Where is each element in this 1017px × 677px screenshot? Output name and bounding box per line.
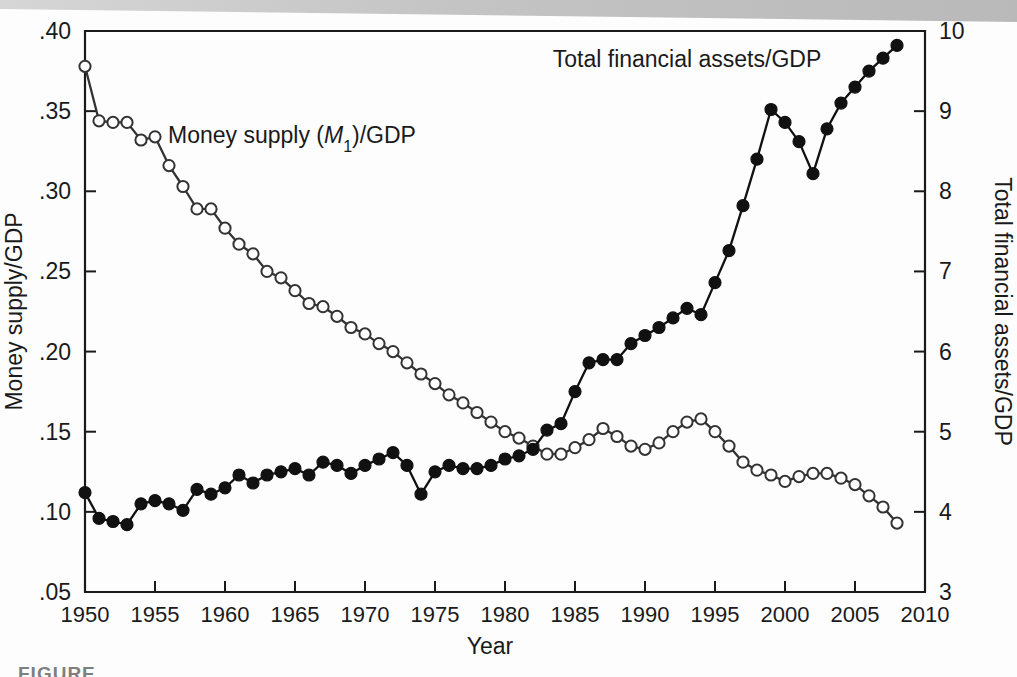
- data-point-open: [667, 426, 678, 437]
- data-point-open: [695, 413, 706, 424]
- data-point-filled: [569, 386, 581, 398]
- data-point-filled: [205, 488, 217, 500]
- data-point-filled: [541, 424, 553, 436]
- data-point-filled: [779, 116, 791, 128]
- y-axis-title: Money supply/GDP: [1, 212, 27, 410]
- data-point-filled: [639, 330, 651, 342]
- data-point-open: [191, 203, 202, 214]
- data-point-filled: [401, 459, 413, 471]
- plot-frame: [85, 31, 925, 592]
- data-point-filled: [821, 123, 833, 135]
- data-point-open: [821, 468, 832, 479]
- data-point-filled: [247, 477, 259, 489]
- x-axis-tick-label: 1975: [411, 602, 460, 627]
- data-point-filled: [163, 498, 175, 510]
- data-point-filled: [331, 459, 343, 471]
- data-point-open: [499, 426, 510, 437]
- data-point-filled: [583, 357, 595, 369]
- data-point-open: [723, 441, 734, 452]
- data-point-open: [751, 465, 762, 476]
- x-axis-title: Year: [467, 633, 514, 659]
- data-point-open: [79, 61, 90, 72]
- y2-axis-tick-label: 9: [939, 98, 952, 124]
- data-point-filled: [611, 354, 623, 366]
- data-point-open: [261, 266, 272, 277]
- y-axis-tick-label: .40: [39, 18, 71, 44]
- data-point-filled: [513, 450, 525, 462]
- data-point-filled: [121, 519, 133, 531]
- data-point-filled: [667, 312, 679, 324]
- x-axis-tick-label: 1960: [201, 602, 250, 627]
- data-point-open: [275, 272, 286, 283]
- data-point-open: [205, 203, 216, 214]
- data-point-filled: [695, 309, 707, 321]
- data-point-open: [303, 298, 314, 309]
- data-point-open: [233, 239, 244, 250]
- data-point-filled: [849, 81, 861, 93]
- data-point-filled: [625, 338, 637, 350]
- data-point-filled: [429, 466, 441, 478]
- data-point-filled: [723, 245, 735, 257]
- x-axis-tick-label: 1990: [621, 602, 670, 627]
- figure-root: 1950195519601965197019751980198519901995…: [0, 0, 1017, 677]
- figure-caption-partial: FIGURE: [18, 663, 238, 677]
- annotation-total-financial-assets-label: Total financial assets/GDP: [553, 46, 821, 72]
- y-axis-tick-label: .20: [39, 339, 71, 365]
- data-point-open: [877, 501, 888, 512]
- y-axis-tick-label: .05: [39, 579, 71, 605]
- data-point-open: [471, 407, 482, 418]
- data-point-open: [247, 248, 258, 259]
- y-axis-tick-label: .30: [39, 178, 71, 204]
- x-axis-tick-label: 1985: [551, 602, 600, 627]
- data-point-open: [737, 457, 748, 468]
- data-point-open: [835, 473, 846, 484]
- data-point-filled: [415, 488, 427, 500]
- x-axis-tick-label: 1995: [691, 602, 740, 627]
- data-point-open: [429, 378, 440, 389]
- data-point-open: [513, 433, 524, 444]
- data-point-open: [359, 328, 370, 339]
- data-point-filled: [863, 65, 875, 77]
- annotation-money-supply-label: Money supply (M1)/GDP: [168, 122, 416, 155]
- x-axis-tick-label: 1950: [61, 602, 110, 627]
- data-point-filled: [261, 469, 273, 481]
- data-point-filled: [219, 482, 231, 494]
- data-point-filled: [387, 447, 399, 459]
- data-point-open: [555, 449, 566, 460]
- data-point-open: [457, 397, 468, 408]
- data-point-filled: [275, 466, 287, 478]
- data-point-filled: [79, 487, 91, 499]
- data-point-filled: [471, 463, 483, 475]
- data-point-filled: [709, 277, 721, 289]
- data-point-open: [317, 301, 328, 312]
- data-point-open: [583, 434, 594, 445]
- x-axis-tick-label: 2000: [761, 602, 810, 627]
- y2-axis-tick-label: 8: [939, 178, 952, 204]
- data-point-open: [709, 426, 720, 437]
- x-axis-tick-label: 1965: [271, 602, 320, 627]
- data-point-open: [569, 442, 580, 453]
- data-point-open: [149, 131, 160, 142]
- data-point-open: [177, 181, 188, 192]
- data-point-open: [345, 322, 356, 333]
- x-axis-tick-label: 1955: [131, 602, 180, 627]
- data-point-open: [415, 368, 426, 379]
- data-point-filled: [359, 459, 371, 471]
- y2-axis-tick-label: 10: [939, 18, 965, 44]
- data-point-filled: [177, 504, 189, 516]
- data-point-open: [387, 346, 398, 357]
- data-point-open: [807, 468, 818, 479]
- data-point-open: [793, 471, 804, 482]
- data-point-filled: [891, 39, 903, 51]
- y2-axis-tick-label: 3: [939, 579, 952, 605]
- data-point-open: [541, 449, 552, 460]
- data-point-filled: [765, 104, 777, 116]
- series-line: [85, 45, 897, 524]
- y2-axis-title: Total financial assets/GDP: [990, 177, 1016, 445]
- x-axis-tick-label: 2010: [901, 602, 950, 627]
- data-point-filled: [93, 512, 105, 524]
- data-point-open: [625, 441, 636, 452]
- y-axis-tick-label: .25: [39, 258, 71, 284]
- data-point-filled: [289, 463, 301, 475]
- data-point-filled: [135, 498, 147, 510]
